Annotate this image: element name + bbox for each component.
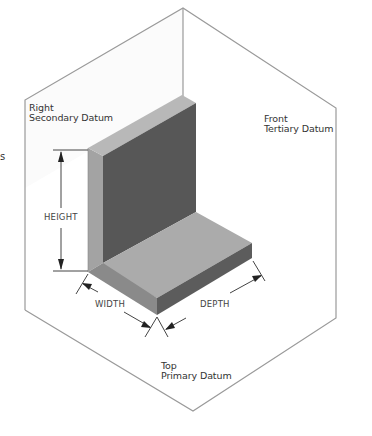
cropped-text-fragment: s <box>0 152 5 162</box>
primary-datum-text: Primary Datum <box>161 371 232 381</box>
right-datum-label: Right Secondary Datum <box>29 103 113 123</box>
width-label: WIDTH <box>94 299 126 309</box>
secondary-datum-text: Secondary Datum <box>29 113 113 123</box>
height-label: HEIGHT <box>43 212 79 222</box>
wall-left-face <box>88 148 103 272</box>
tertiary-datum-text: Tertiary Datum <box>264 124 333 134</box>
front-datum-label: Front Tertiary Datum <box>264 114 333 134</box>
depth-label: DEPTH <box>199 299 231 309</box>
top-datum-label: Top Primary Datum <box>161 361 232 381</box>
